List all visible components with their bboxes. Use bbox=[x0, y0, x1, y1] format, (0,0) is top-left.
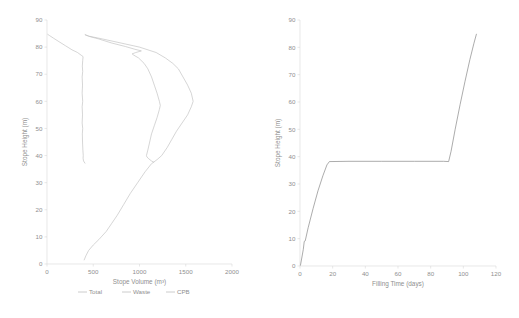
stope-volume-svg: 01020304050607080900500100015002000Stope… bbox=[0, 0, 260, 318]
figure-container: 01020304050607080900500100015002000Stope… bbox=[0, 0, 519, 318]
x-tick-label: 2000 bbox=[225, 268, 239, 275]
y-tick-label: 80 bbox=[36, 43, 43, 50]
y-tick-label: 90 bbox=[36, 16, 43, 23]
x-tick-label: 40 bbox=[362, 270, 369, 277]
x-tick-label: 0 bbox=[298, 270, 302, 277]
right-series-group bbox=[300, 34, 476, 265]
y-tick-label: 10 bbox=[289, 235, 296, 242]
series-line-filling-schedule bbox=[300, 34, 476, 265]
y-tick-label: 60 bbox=[36, 98, 43, 105]
series-line-total bbox=[84, 35, 193, 260]
y-tick-label: 60 bbox=[289, 98, 296, 105]
legend-label-cpb[interactable]: CPB bbox=[177, 288, 190, 295]
y-tick-label: 40 bbox=[289, 153, 296, 160]
y-tick-label: 0 bbox=[292, 262, 296, 269]
y-tick-label: 50 bbox=[289, 126, 296, 133]
y-tick-label: 20 bbox=[36, 206, 43, 213]
filling-time-svg: 0102030405060708090020406080100120Fillin… bbox=[260, 0, 519, 318]
y-tick-label: 70 bbox=[289, 71, 296, 78]
y-tick-label: 30 bbox=[36, 179, 43, 186]
y-tick-label: 0 bbox=[39, 260, 43, 267]
x-tick-label: 0 bbox=[45, 268, 49, 275]
right-labels-group: 0102030405060708090020406080100120Fillin… bbox=[274, 16, 502, 288]
x-tick-label: 1500 bbox=[179, 268, 193, 275]
x-tick-label: 500 bbox=[88, 268, 99, 275]
y-axis-title: Stope Height (m) bbox=[274, 119, 282, 167]
y-tick-label: 90 bbox=[289, 16, 296, 23]
y-tick-label: 40 bbox=[36, 152, 43, 159]
legend-label-waste[interactable]: Waste bbox=[133, 288, 151, 295]
x-axis-title: Stope Volume (m³) bbox=[113, 278, 166, 286]
y-tick-label: 20 bbox=[289, 208, 296, 215]
left-labels-group: 01020304050607080900500100015002000Stope… bbox=[21, 16, 239, 286]
x-tick-label: 100 bbox=[458, 270, 469, 277]
chart-stope-volume: 01020304050607080900500100015002000Stope… bbox=[0, 0, 260, 318]
y-tick-label: 70 bbox=[36, 70, 43, 77]
x-tick-label: 1000 bbox=[133, 268, 147, 275]
x-axis-title: Filling Time (days) bbox=[372, 280, 424, 288]
y-tick-label: 80 bbox=[289, 44, 296, 51]
left-legend-group: TotalWasteCPB bbox=[78, 288, 190, 295]
series-line-cpb bbox=[48, 34, 85, 163]
series-line-waste bbox=[85, 35, 160, 163]
x-tick-label: 80 bbox=[427, 270, 434, 277]
x-tick-label: 60 bbox=[395, 270, 402, 277]
left-axes-group bbox=[45, 20, 233, 267]
y-axis-title: Stope Height (m) bbox=[21, 118, 29, 166]
chart-filling-time: 0102030405060708090020406080100120Fillin… bbox=[260, 0, 519, 318]
y-tick-label: 10 bbox=[36, 233, 43, 240]
x-tick-label: 20 bbox=[329, 270, 336, 277]
right-axes-group bbox=[298, 20, 497, 269]
left-series-group bbox=[48, 34, 193, 260]
y-tick-label: 50 bbox=[36, 125, 43, 132]
y-tick-label: 30 bbox=[289, 180, 296, 187]
x-tick-label: 120 bbox=[491, 270, 502, 277]
legend-label-total[interactable]: Total bbox=[89, 288, 102, 295]
